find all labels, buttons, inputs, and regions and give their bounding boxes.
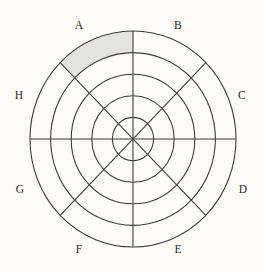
sector-label-d: D (239, 184, 248, 196)
sector-label-g: G (16, 184, 25, 196)
sector-label-c: C (238, 90, 246, 102)
sector-label-a: A (75, 20, 84, 32)
sector-label-e: E (174, 244, 181, 256)
sector-label-b: B (174, 20, 182, 32)
polar-sector-diagram: ABCDEFGH (0, 0, 264, 271)
polar-grid-svg (0, 0, 264, 271)
sector-label-f: F (76, 244, 83, 256)
spokes-layer (30, 31, 236, 247)
sector-label-h: H (15, 90, 24, 102)
